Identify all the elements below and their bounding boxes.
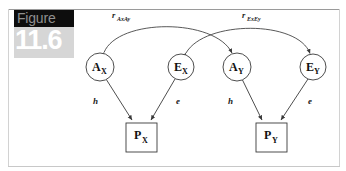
node-sublabel-ax: X: [101, 67, 107, 76]
path-label-h-left: h: [93, 96, 98, 106]
path-label-e-right: e: [308, 96, 312, 106]
path-label-h-right: h: [228, 96, 233, 106]
node-label-py: P: [264, 128, 271, 142]
path-label-e-left: e: [176, 96, 180, 106]
node-label-px: P: [134, 128, 141, 142]
arc-label-rexey-base: r: [242, 10, 246, 20]
node-label-ex: E: [174, 60, 182, 74]
path-ax-to-px: [106, 79, 132, 120]
path-ex-to-px: [151, 79, 175, 120]
arc-label-rexey-sub: ExEy: [246, 16, 261, 22]
arc-label-raxay-base: r: [112, 10, 116, 20]
node-sublabel-ey: Y: [314, 67, 320, 76]
correlation-arc-axay: [104, 27, 232, 53]
figure-container: Figure 11.6 A X E X A: [0, 0, 346, 171]
node-sublabel-py: Y: [272, 136, 278, 145]
node-sublabel-px: X: [142, 136, 148, 145]
path-ay-to-py: [242, 79, 262, 120]
node-label-ey: E: [306, 60, 314, 74]
node-sublabel-ay: Y: [238, 67, 244, 76]
node-label-ay: A: [229, 60, 238, 74]
path-diagram: A X E X A Y E Y P X P Y h e h e r AxAy r…: [0, 0, 346, 171]
node-label-ax: A: [92, 60, 101, 74]
node-sublabel-ex: X: [182, 67, 188, 76]
path-ey-to-py: [281, 79, 308, 120]
arc-label-raxay-sub: AxAy: [116, 16, 131, 22]
